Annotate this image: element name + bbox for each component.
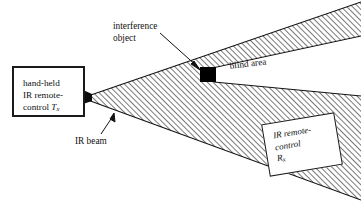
interference-object-label-line-1: interference	[113, 21, 157, 31]
transmitter-line-1: hand-held	[23, 78, 60, 88]
receiver-symbol-subscript: x	[282, 156, 286, 163]
interference-object-icon	[200, 67, 216, 82]
interference-object-label-line-2: object	[113, 33, 136, 43]
ir-beam-label: IR beam	[75, 136, 107, 147]
receiver-label: IR remote- control Rx	[272, 124, 316, 165]
transmitter-line-3-prefix: control	[23, 102, 51, 112]
interference-object-label: interference object	[113, 20, 157, 44]
transmitter-line-2: IR remote-	[23, 90, 63, 100]
hand-held-transmitter-box: hand-held IR remote- control Tx	[12, 66, 85, 117]
diagram-canvas: hand-held IR remote- control Tx IR remot…	[0, 0, 361, 202]
transmitter-label: hand-held IR remote- control Tx	[23, 77, 63, 114]
transmitter-symbol-subscript: x	[56, 106, 59, 113]
receiver-line-2: control	[274, 138, 301, 152]
